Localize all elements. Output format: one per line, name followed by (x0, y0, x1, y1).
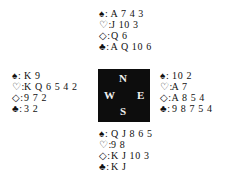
west-diamonds-cards: 9 7 2 (24, 92, 47, 103)
south-clubs-cards: K J (111, 161, 126, 172)
spade-icon: ♠: (160, 70, 169, 81)
west-hearts-cards: K Q 6 5 4 2 (24, 81, 78, 92)
west-hearts: ♡: K Q 6 5 4 2 (12, 81, 78, 92)
west-diamonds: ◇: 9 7 2 (12, 92, 78, 103)
north-hand: ♠: A 7 4 3 ♡: J 10 3 ◇: Q 6 ♣: A Q 10 6 (99, 8, 152, 52)
south-spades: ♠: Q J 8 6 5 (99, 128, 153, 139)
east-spades-cards: 10 2 (172, 70, 192, 81)
east-hand: ♠: 10 2 ♡: A 7 ◇: A 8 5 4 ♣: 9 8 7 5 4 (160, 70, 213, 114)
club-icon: ♣: (99, 41, 108, 52)
spade-icon: ♠: (12, 70, 21, 81)
north-hearts: ♡: J 10 3 (99, 19, 152, 30)
diamond-icon: ◇: (12, 92, 21, 103)
club-icon: ♣: (99, 161, 108, 172)
south-hearts-cards: 9 8 (111, 139, 125, 150)
north-hearts-cards: J 10 3 (111, 19, 139, 30)
west-spades-cards: K 9 (24, 70, 41, 81)
diamond-icon: ◇: (99, 150, 108, 161)
spade-icon: ♠: (99, 128, 108, 139)
south-diamonds-cards: K J 10 3 (111, 150, 149, 161)
south-diamonds: ◇: K J 10 3 (99, 150, 153, 161)
south-hand: ♠: Q J 8 6 5 ♡: 9 8 ◇: K J 10 3 ♣: K J (99, 128, 153, 172)
north-spades-cards: A 7 4 3 (111, 8, 144, 19)
south-label: S (120, 105, 126, 117)
spade-icon: ♠: (99, 8, 108, 19)
west-spades: ♠: K 9 (12, 70, 78, 81)
east-diamonds: ◇: A 8 5 4 (160, 92, 213, 103)
south-clubs: ♣: K J (99, 161, 153, 172)
east-spades: ♠: 10 2 (160, 70, 213, 81)
west-clubs-cards: 3 2 (24, 103, 38, 114)
club-icon: ♣: (160, 103, 169, 114)
heart-icon: ♡: (12, 81, 21, 92)
south-hearts: ♡: 9 8 (99, 139, 153, 150)
east-label: E (137, 89, 144, 101)
north-spades: ♠: A 7 4 3 (99, 8, 152, 19)
north-diamonds-cards: Q 6 (111, 30, 128, 41)
north-clubs: ♣: A Q 10 6 (99, 41, 152, 52)
club-icon: ♣: (12, 103, 21, 114)
east-clubs: ♣: 9 8 7 5 4 (160, 103, 213, 114)
north-diamonds: ◇: Q 6 (99, 30, 152, 41)
east-diamonds-cards: A 8 5 4 (172, 92, 205, 103)
east-hearts: ♡: A 7 (160, 81, 213, 92)
diamond-icon: ◇: (99, 30, 108, 41)
east-clubs-cards: 9 8 7 5 4 (172, 103, 212, 114)
east-hearts-cards: A 7 (172, 81, 188, 92)
compass-box: N W E S (98, 69, 150, 122)
heart-icon: ♡: (160, 81, 169, 92)
north-label: N (119, 72, 127, 84)
heart-icon: ♡: (99, 139, 108, 150)
diamond-icon: ◇: (160, 92, 169, 103)
south-spades-cards: Q J 8 6 5 (111, 128, 153, 139)
heart-icon: ♡: (99, 19, 108, 30)
north-clubs-cards: A Q 10 6 (111, 41, 152, 52)
west-clubs: ♣: 3 2 (12, 103, 78, 114)
west-hand: ♠: K 9 ♡: K Q 6 5 4 2 ◇: 9 7 2 ♣: 3 2 (12, 70, 78, 114)
west-label: W (104, 89, 115, 101)
